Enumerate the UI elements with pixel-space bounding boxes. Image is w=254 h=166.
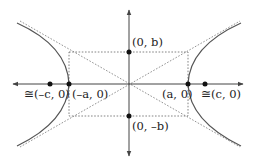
label-pos-a: (a, 0) [162,87,192,101]
point-pos-c [203,82,208,87]
point-pos-b [127,50,132,55]
point-neg-a [67,82,72,87]
point-pos-a [186,82,191,87]
point-neg-b [127,114,132,119]
label-pos-c: ≅(c, 0) [201,87,241,101]
point-neg-c [48,82,53,87]
label-neg-b: (0, –b) [132,119,169,133]
label-pos-b: (0, b) [132,35,163,49]
hyperbola-diagram: (0, b) (0, –b) (–a, 0) (a, 0) ≅(–c, 0) ≅… [0,0,254,166]
label-neg-a: (–a, 0) [72,87,108,101]
label-neg-c: ≅(–c, 0) [24,87,70,101]
